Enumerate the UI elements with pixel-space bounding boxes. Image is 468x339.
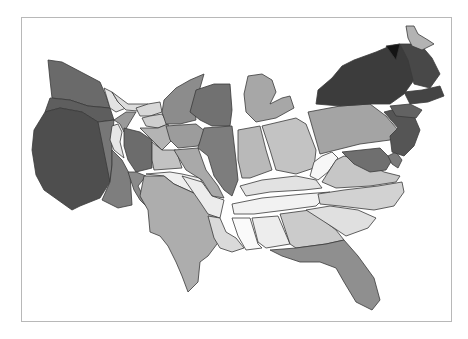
state-michigan[interactable] — [244, 74, 294, 122]
state-kentucky[interactable] — [240, 176, 322, 196]
state-new-york[interactable] — [316, 44, 414, 106]
state-massachusetts[interactable] — [404, 86, 444, 104]
state-florida[interactable] — [270, 240, 380, 310]
cartogram-map — [0, 0, 468, 339]
